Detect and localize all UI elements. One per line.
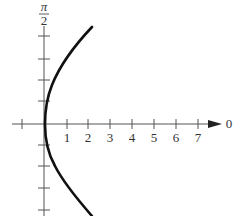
zero-angle-label: 0 — [226, 116, 233, 131]
tick-label-1: 1 — [64, 130, 71, 145]
tick-label-2: 2 — [85, 130, 92, 145]
polar-graph: π 2 1 2 3 4 5 6 7 0 — [0, 0, 241, 216]
tick-label-4: 4 — [129, 130, 136, 145]
tick-label-7: 7 — [195, 130, 202, 145]
pi-label: π — [41, 0, 48, 14]
tick-label-6: 6 — [173, 130, 180, 145]
two-label: 2 — [41, 13, 48, 28]
tick-label-5: 5 — [151, 130, 158, 145]
tick-label-3: 3 — [107, 130, 114, 145]
arrow-head-icon — [208, 120, 222, 128]
polar-curve — [45, 27, 92, 216]
